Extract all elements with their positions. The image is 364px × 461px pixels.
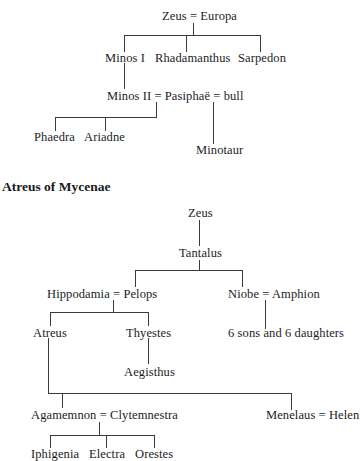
node-niobe-children: 6 sons and 6 daughters — [228, 327, 344, 340]
node-iphigenia: Iphigenia — [31, 448, 79, 461]
node-minos-ii-pasiphae-bull: Minos II = Pasiphaë = bull — [107, 90, 243, 103]
node-sarpedon: Sarpedon — [238, 52, 286, 65]
node-rhadamanthus: Rhadamanthus — [155, 52, 231, 65]
section-heading-atreus: Atreus of Mycenae — [2, 180, 110, 194]
node-atreus: Atreus — [33, 327, 67, 340]
node-tantalus: Tantalus — [179, 247, 222, 260]
node-thyestes: Thyestes — [126, 327, 171, 340]
node-zeus: Zeus — [188, 207, 213, 220]
node-orestes: Orestes — [135, 448, 173, 461]
node-hippodamia-pelops: Hippodamia = Pelops — [47, 288, 157, 301]
node-ariadne: Ariadne — [84, 131, 125, 144]
node-menelaus-helen: Menelaus = Helen — [266, 409, 359, 422]
node-minos-i: Minos I — [105, 52, 145, 65]
node-minotaur: Minotaur — [196, 144, 243, 157]
node-aegisthus: Aegisthus — [124, 366, 175, 379]
node-phaedra: Phaedra — [34, 131, 75, 144]
node-agamemnon-clytemnestra: Agamemnon = Clytemnestra — [31, 409, 178, 422]
node-niobe-amphion: Niobe = Amphion — [228, 288, 320, 301]
node-electra: Electra — [89, 448, 125, 461]
node-zeus-europa: Zeus = Europa — [162, 10, 237, 23]
